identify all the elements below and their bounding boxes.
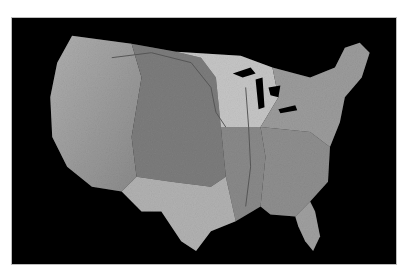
- region-texas: [122, 177, 236, 251]
- region-west: [50, 36, 141, 192]
- us-relief-map: [12, 18, 396, 264]
- region-southeast: [261, 127, 330, 216]
- map-frame: [11, 17, 397, 265]
